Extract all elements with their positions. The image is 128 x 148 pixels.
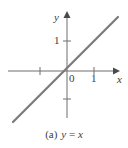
caption-equation-lhs: y	[61, 128, 66, 140]
plot-area	[0, 0, 128, 148]
x-axis-label: x	[117, 74, 122, 85]
y-axis-label: y	[54, 12, 59, 23]
origin-label: 0	[69, 73, 75, 84]
caption-tag: (a)	[45, 128, 57, 140]
figure-graph-y-equals-x: y x 0 1 1 (a)y = x	[0, 0, 128, 148]
caption-equation-rhs: x	[78, 128, 83, 140]
x-tick-label-one: 1	[91, 73, 97, 84]
figure-caption: (a)y = x	[0, 128, 128, 140]
data-line-y-equals-x	[13, 17, 118, 122]
y-tick-label-one: 1	[54, 35, 60, 46]
y-axis-arrow-icon	[64, 11, 71, 18]
caption-equation: y = x	[61, 128, 83, 140]
caption-equation-operator: =	[69, 128, 75, 140]
